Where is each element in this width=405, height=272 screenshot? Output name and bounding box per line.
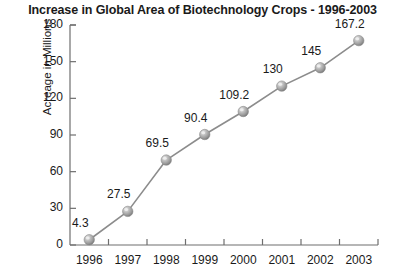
y-tick-label: 0 xyxy=(23,237,63,251)
data-point-marker xyxy=(315,63,325,73)
y-tick-label: 150 xyxy=(23,54,63,68)
y-tick-label: 180 xyxy=(23,17,63,31)
data-point-marker xyxy=(161,155,171,165)
data-point-marker xyxy=(277,81,287,91)
data-point-label: 109.2 xyxy=(211,88,257,102)
x-tick-label: 2003 xyxy=(335,253,383,267)
y-tick-label: 30 xyxy=(23,200,63,214)
data-point-label: 167.2 xyxy=(327,17,373,31)
data-point-label: 69.5 xyxy=(134,136,180,150)
data-point-label: 130 xyxy=(250,62,296,76)
line-chart: Increase in Global Area of Biotechnology… xyxy=(0,0,405,272)
axis-ticks xyxy=(70,25,378,245)
data-markers xyxy=(84,35,364,245)
y-tick-label: 120 xyxy=(23,90,63,104)
data-point-marker xyxy=(238,106,248,116)
data-point-label: 27.5 xyxy=(96,187,142,201)
data-point-marker xyxy=(354,35,364,45)
data-point-label: 90.4 xyxy=(173,111,219,125)
data-point-label: 145 xyxy=(288,44,334,58)
data-point-marker xyxy=(123,206,133,216)
y-tick-label: 60 xyxy=(23,164,63,178)
axis-lines xyxy=(70,25,378,245)
y-tick-label: 90 xyxy=(23,127,63,141)
data-point-marker xyxy=(84,235,94,245)
data-point-marker xyxy=(200,129,210,139)
data-point-label: 4.3 xyxy=(57,216,103,230)
